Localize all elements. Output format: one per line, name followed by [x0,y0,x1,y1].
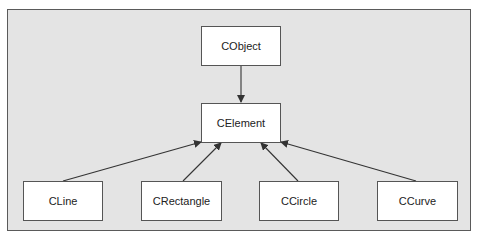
node-ccircle: CCircle [259,181,339,221]
edge-crectangle-celement [183,143,221,181]
node-label: CElement [217,117,265,129]
node-label: CCircle [281,195,317,207]
node-label: CCurve [399,195,436,207]
node-celement: CElement [201,103,281,143]
node-label: CRectangle [153,195,210,207]
node-crectangle: CRectangle [141,181,222,221]
node-label: CObject [221,40,261,52]
node-label: CLine [49,195,78,207]
edge-ccircle-celement [261,143,298,181]
node-cline: CLine [23,181,103,221]
edge-ccurve-celement [281,142,416,181]
node-ccurve: CCurve [377,181,458,221]
node-cobject: CObject [201,26,281,66]
edge-cline-celement [63,142,201,181]
